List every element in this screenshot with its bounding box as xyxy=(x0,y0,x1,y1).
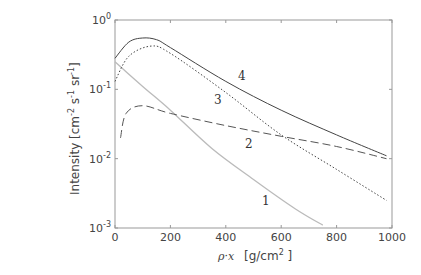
curve-label-1: 1 xyxy=(262,194,270,208)
y-tick-label: 10-2 xyxy=(89,151,111,166)
curve-2 xyxy=(121,106,387,159)
y-tick-label: 10-3 xyxy=(89,220,111,235)
curve-label-2: 2 xyxy=(245,137,253,151)
tick-labels: 0200400600800100010-310-210-1100 xyxy=(89,12,406,244)
curve-label-3: 3 xyxy=(214,93,222,107)
x-tick-label: 200 xyxy=(160,231,181,244)
x-tick-label: 0 xyxy=(112,231,119,244)
x-tick-label: 400 xyxy=(215,231,236,244)
y-tick-label: 10-1 xyxy=(89,81,111,96)
axis-ticks xyxy=(115,20,392,228)
y-tick-label: 100 xyxy=(92,12,111,27)
curve-1 xyxy=(115,62,323,225)
x-tick-label: 1000 xyxy=(378,231,406,244)
x-axis-label: ρ·x [g/cm2 ] xyxy=(217,248,292,263)
x-tick-label: 800 xyxy=(326,231,347,244)
x-tick-label: 600 xyxy=(271,231,292,244)
y-axis-label: Intensity [cm-2 s-1 sr-1] xyxy=(67,62,82,195)
plot-area xyxy=(115,20,392,228)
chart: 0200400600800100010-310-210-1100 1 2 3 4… xyxy=(0,0,421,275)
curve-label-4: 4 xyxy=(238,69,246,83)
curves xyxy=(115,38,387,225)
